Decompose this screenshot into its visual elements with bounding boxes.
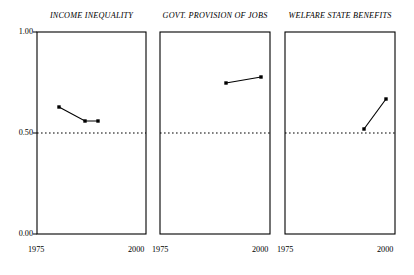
panel3-series-line [364,99,386,129]
panel2-data-point [259,75,262,78]
panel1-data-point [83,119,86,122]
panel1-series-line [59,107,98,121]
panel1-data-point [96,119,99,122]
panel3-data-point [362,127,365,130]
panel2-series-line [226,77,261,83]
panel-welfare-state-benefits [285,32,395,234]
panel1-data-point [57,105,60,108]
y-axis-ticks [33,32,37,234]
plot-canvas [0,0,414,275]
panel2-data-point [224,81,227,84]
panel-income-inequality [37,32,146,234]
chart-figure: INCOME INEQUALITY GOVT. PROVISION OF JOB… [0,0,414,275]
panel3-data-point [384,97,387,100]
panel-govt-provision-of-jobs [160,32,270,234]
